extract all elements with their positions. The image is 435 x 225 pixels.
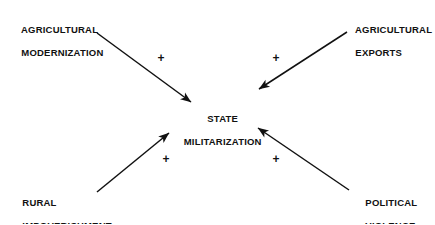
node-label-line2: EXPORTS — [355, 47, 402, 58]
node-label-line1: AGRICULTURAL — [21, 24, 98, 35]
node-political-violence: POLITICAL VIOLENCE — [354, 185, 417, 224]
edge-sign-agricultural-modernization: + — [155, 52, 167, 64]
node-agricultural-modernization: AGRICULTURAL MODERNIZATION — [10, 12, 103, 70]
node-rural-impoverishment: RURAL IMPOVERISHMENT — [11, 185, 112, 224]
node-label-line2: VIOLENCE — [365, 220, 415, 225]
node-label-line2: IMPOVERISHMENT — [22, 220, 111, 225]
node-label-line1: RURAL — [22, 197, 56, 208]
center-node-line1: STATE — [207, 113, 238, 124]
edge-sign-rural-impoverishment: + — [160, 153, 172, 165]
arrow-agricultural-modernization — [97, 33, 191, 102]
edge-sign-political-violence: + — [270, 153, 282, 165]
node-label-line1: AGRICULTURAL — [355, 24, 432, 35]
edge-sign-agricultural-exports: + — [270, 52, 282, 64]
node-label-line2: MODERNIZATION — [21, 47, 103, 58]
node-label-line1: POLITICAL — [365, 197, 417, 208]
node-agricultural-exports: AGRICULTURAL EXPORTS — [344, 12, 432, 70]
causal-diagram: AGRICULTURAL MODERNIZATION AGRICULTURAL … — [0, 0, 435, 224]
center-node-line2: MILITARIZATION — [184, 136, 262, 147]
node-state-militarization: STATE MILITARIZATION — [158, 101, 276, 159]
